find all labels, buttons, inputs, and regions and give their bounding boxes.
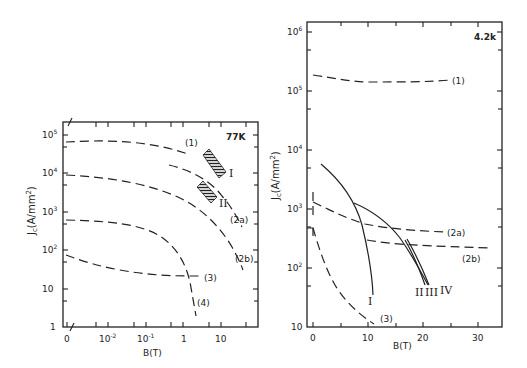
right-temperature-label: 4.2k [474, 32, 497, 42]
right-y-tick-labels: 106 105 104 103 102 10 [287, 25, 303, 332]
right-curve-1 [313, 75, 450, 82]
svg-text:104: 104 [287, 143, 302, 155]
svg-text:106: 106 [287, 25, 302, 37]
right-label-IV: IV [440, 284, 453, 297]
svg-text:0: 0 [310, 333, 316, 343]
left-curve-1 [66, 141, 188, 154]
left-x-axis-label: B(T) [143, 348, 162, 358]
left-y-ticks [63, 135, 258, 301]
svg-text:20: 20 [417, 333, 429, 343]
right-curve-I [321, 164, 373, 295]
svg-text:10: 10 [215, 334, 227, 344]
left-y-tick-labels: 105 104 103 102 10 1 [42, 128, 57, 332]
left-band-II [197, 181, 217, 203]
svg-text:105: 105 [287, 84, 302, 96]
right-label-3: (3) [380, 314, 393, 324]
right-curve-3-offset [307, 228, 313, 236]
svg-text:10: 10 [362, 333, 374, 343]
svg-text:10-1: 10-1 [137, 332, 155, 344]
left-label-I: I [229, 167, 233, 180]
right-curve-IV [354, 203, 428, 285]
svg-text:1: 1 [181, 334, 187, 344]
left-curve-2b [66, 175, 243, 270]
figure: 105 104 103 102 10 1 0 10-2 10-1 1 10 B(… [0, 0, 527, 368]
svg-text:30: 30 [472, 333, 484, 343]
svg-text:10-2: 10-2 [99, 332, 117, 344]
svg-text:10: 10 [291, 322, 303, 332]
right-y-axis-label: Jc(A/mm2) [269, 151, 283, 201]
svg-text:0: 0 [64, 334, 70, 344]
svg-text:102: 102 [287, 261, 302, 273]
left-label-1: (1) [185, 138, 198, 148]
left-label-2b: (2b) [235, 254, 253, 264]
left-curve-4 [66, 220, 196, 316]
right-curve-2b [367, 240, 491, 248]
right-x-ticks [313, 22, 478, 327]
left-label-2a: (2a) [230, 215, 248, 225]
left-plot-frame [63, 122, 258, 327]
svg-text:104: 104 [42, 166, 57, 178]
left-band-I [203, 149, 226, 178]
left-x-ticks [67, 122, 246, 327]
left-label-3: (3) [204, 273, 217, 283]
svg-text:10: 10 [42, 284, 54, 294]
right-label-2a: (2a) [447, 228, 465, 238]
left-chart: 105 104 103 102 10 1 0 10-2 10-1 1 10 B(… [25, 118, 258, 358]
left-x-tick-labels: 0 10-2 10-1 1 10 [64, 332, 227, 344]
left-label-II: II [219, 197, 228, 210]
svg-text:103: 103 [42, 205, 57, 217]
right-label-III: III [425, 286, 438, 299]
left-label-4: (4) [197, 298, 210, 308]
left-y-axis-label: Jc(A/mm2) [25, 186, 39, 236]
right-chart: 106 105 104 103 102 10 0 10 20 30 B(T) J… [269, 22, 502, 351]
right-x-axis-label: B(T) [393, 341, 412, 351]
svg-text:1: 1 [50, 322, 56, 332]
left-temperature-label: 77K [226, 132, 247, 142]
right-label-II: II [415, 286, 424, 299]
left-curve-3 [66, 255, 200, 276]
right-plot-frame [307, 22, 502, 327]
svg-text:102: 102 [42, 243, 57, 255]
right-label-2b: (2b) [462, 254, 480, 264]
svg-text:105: 105 [42, 128, 57, 140]
svg-text:103: 103 [287, 202, 302, 214]
right-label-I: I [368, 295, 372, 308]
right-curve-3 [313, 192, 374, 324]
right-label-1: (1) [452, 76, 465, 86]
